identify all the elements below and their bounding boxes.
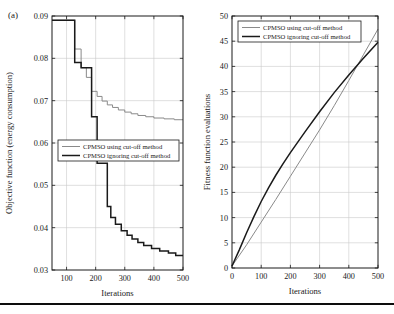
xtick-label: 200 — [284, 272, 296, 281]
chart-right-fitness-evaluations: 010020030040050005101520253035404550Iter… — [196, 0, 394, 314]
legend-label: CPMSO ignoring cut-off method — [83, 152, 171, 159]
yaxis-title: Fitness function evaluations — [202, 93, 212, 190]
chart-svg-left: 1002003004005000.030.040.050.060.070.080… — [0, 0, 196, 314]
series-line-ignoring-cutoff — [232, 42, 378, 266]
xtick-label: 0 — [230, 272, 234, 281]
ytick-label: 25 — [220, 138, 228, 147]
xaxis-title: Iterations — [101, 288, 134, 298]
xtick-label: 300 — [313, 272, 325, 281]
legend-label: CPMSO using cut-off method — [83, 143, 163, 150]
xtick-label: 300 — [119, 274, 131, 283]
xtick-label: 200 — [90, 274, 102, 283]
ytick-label: 0.04 — [34, 224, 48, 233]
legend-left: CPMSO using cut-off methodCPMSO ignoring… — [58, 140, 179, 161]
ytick-label: 50 — [220, 12, 228, 21]
ticks-right: 010020030040050005101520253035404550 — [220, 12, 384, 281]
ytick-label: 40 — [220, 62, 228, 71]
ytick-label: 0 — [224, 264, 228, 273]
chart-left-objective-function: 1002003004005000.030.040.050.060.070.080… — [0, 0, 196, 314]
series-group-right — [232, 29, 378, 266]
ytick-label: 15 — [220, 188, 228, 197]
ytick-label: 10 — [220, 214, 228, 223]
ytick-label: 0.08 — [34, 54, 48, 63]
xtick-label: 400 — [148, 274, 160, 283]
ytick-label: 5 — [224, 239, 228, 248]
ytick-label: 45 — [220, 37, 228, 46]
ytick-label: 0.06 — [34, 139, 48, 148]
series-group-left — [52, 20, 183, 255]
xtick-label: 100 — [255, 272, 267, 281]
ytick-label: 30 — [220, 113, 228, 122]
ytick-label: 0.05 — [34, 181, 48, 190]
ytick-label: 0.09 — [34, 12, 48, 21]
yaxis-title: Objective function (energy consumption) — [4, 72, 14, 214]
series-line-using-cutoff — [232, 29, 378, 266]
xtick-label: 400 — [343, 272, 355, 281]
ytick-label: 0.03 — [34, 266, 48, 275]
figure-container: (a) 1002003004005000.030.040.050.060.070… — [0, 0, 394, 314]
xtick-label: 500 — [177, 274, 189, 283]
series-line-ignoring-cutoff — [52, 20, 183, 255]
ytick-label: 35 — [220, 88, 228, 97]
chart-svg-right: 010020030040050005101520253035404550Iter… — [196, 0, 394, 314]
gridlines-right — [232, 16, 378, 268]
legend-label: CPMSO using cut-off method — [263, 24, 343, 31]
xaxis-title: Iterations — [289, 286, 322, 296]
legend-right: CPMSO using cut-off methodCPMSO ignoring… — [238, 21, 361, 42]
bottom-divider-rule — [0, 303, 394, 305]
ytick-label: 20 — [220, 163, 228, 172]
xtick-label: 100 — [60, 274, 72, 283]
xtick-label: 500 — [372, 272, 384, 281]
series-line-using-cutoff — [52, 20, 183, 119]
legend-label: CPMSO ignoring cut-off method — [263, 33, 351, 40]
ytick-label: 0.07 — [34, 97, 48, 106]
